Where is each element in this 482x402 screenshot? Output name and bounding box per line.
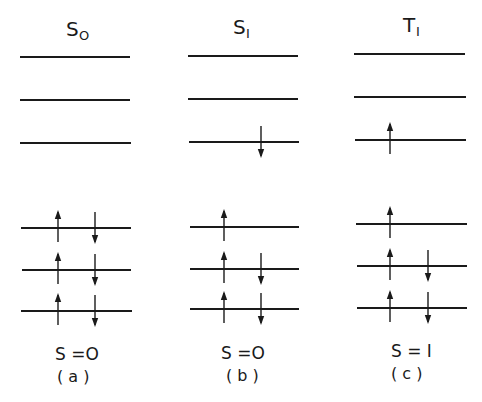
- panel-label-a: ( a ): [57, 367, 89, 386]
- spin-label-c: S = I: [391, 341, 432, 361]
- spin-up-arrow-icon: [387, 248, 393, 280]
- spin-up-arrow-icon: [55, 293, 61, 325]
- spin-up-arrow-icon: [387, 122, 393, 154]
- panel-label-b: ( b ): [226, 366, 259, 385]
- state-letter: T: [402, 13, 416, 37]
- spin-up-arrow-icon: [387, 290, 393, 322]
- spin-up-arrow-icon: [221, 251, 227, 283]
- state-label-s0: S O: [66, 17, 89, 43]
- spin-up-arrow-icon: [55, 252, 61, 284]
- state-subscript: I: [416, 24, 420, 39]
- state-subscript: O: [79, 28, 89, 43]
- state-label-s1: S I: [233, 15, 250, 41]
- orbital-levels: [20, 54, 467, 311]
- spin-up-arrow-icon: [221, 291, 227, 323]
- spin-up-arrow-icon: [55, 210, 61, 242]
- panel-label-c: ( c ): [391, 364, 422, 383]
- state-letter: S: [66, 17, 79, 41]
- spin-label-a: S =O: [55, 344, 99, 364]
- energy-level-diagram: S O S I T I S =O ( a ) S =O ( b ) S = I …: [0, 0, 482, 402]
- state-label-t1: T I: [402, 13, 420, 39]
- state-letter: S: [233, 15, 246, 39]
- spin-label-b: S =O: [221, 343, 265, 363]
- state-subscript: I: [246, 26, 250, 41]
- spin-up-arrow-icon: [221, 209, 227, 241]
- spin-up-arrow-icon: [387, 206, 393, 238]
